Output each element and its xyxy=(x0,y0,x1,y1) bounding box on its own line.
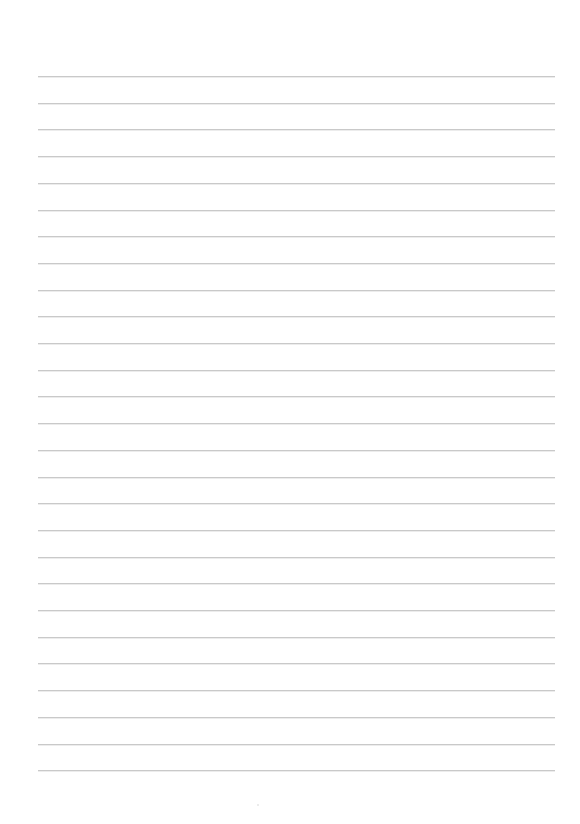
ruled-line xyxy=(38,156,555,157)
ruled-line xyxy=(38,396,555,397)
ruled-line xyxy=(38,290,555,291)
ruled-line xyxy=(38,717,555,718)
ruled-line xyxy=(38,76,555,77)
ruled-line xyxy=(38,637,555,638)
ruled-line xyxy=(38,423,555,424)
ruled-line xyxy=(38,530,555,531)
ruled-line xyxy=(38,370,555,371)
ruled-line xyxy=(38,183,555,184)
ruled-line xyxy=(38,557,555,558)
ruled-line xyxy=(38,103,555,104)
lined-paper-sheet xyxy=(0,0,580,824)
ruled-line xyxy=(38,744,555,745)
ruled-line xyxy=(38,343,555,344)
ruled-line xyxy=(38,450,555,451)
ruled-line xyxy=(38,663,555,664)
ruled-line xyxy=(38,690,555,691)
ruled-line xyxy=(38,236,555,237)
ruled-line xyxy=(38,210,555,211)
ruled-line xyxy=(38,263,555,264)
ruled-line xyxy=(38,770,555,771)
ruled-line xyxy=(38,129,555,130)
ruled-line xyxy=(38,477,555,478)
ruled-line xyxy=(38,503,555,504)
paper-speck xyxy=(257,804,259,806)
ruled-line xyxy=(38,316,555,317)
ruled-line xyxy=(38,610,555,611)
ruled-line xyxy=(38,583,555,584)
